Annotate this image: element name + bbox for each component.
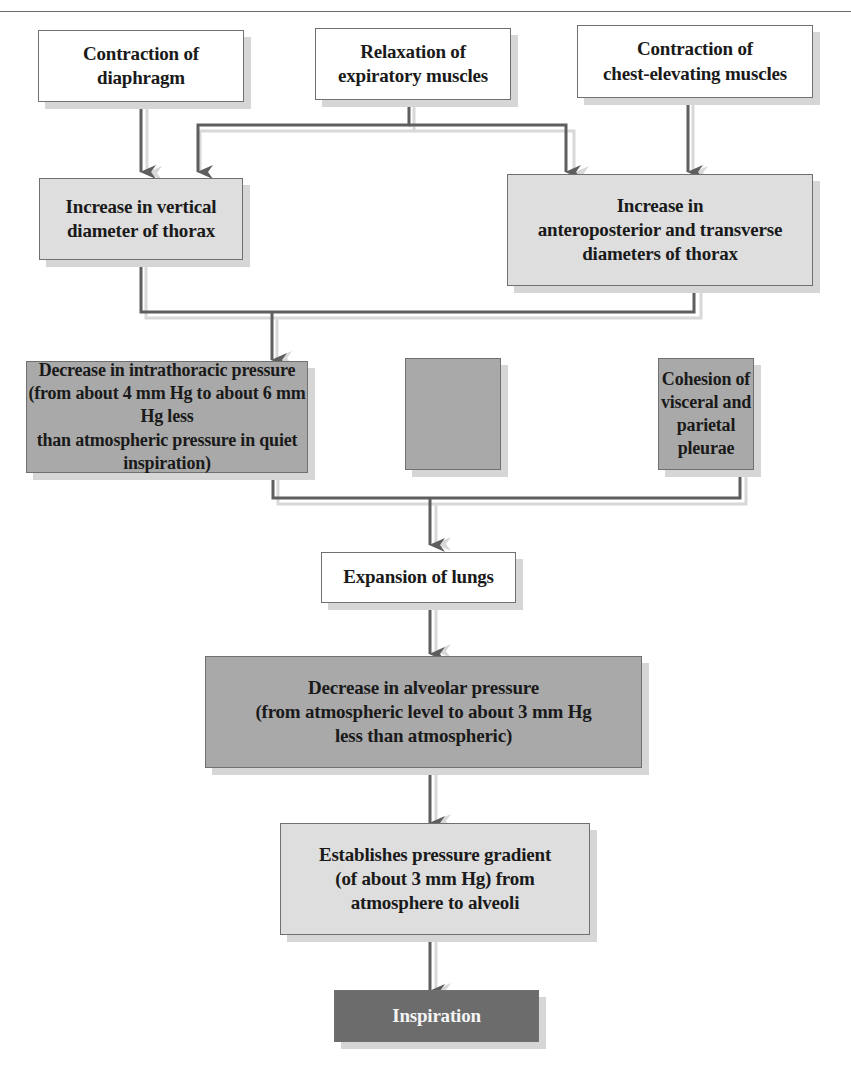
- node-label: Inspiration: [392, 1004, 481, 1028]
- node-label: Contraction of chest-elevating muscles: [603, 37, 787, 86]
- node-contraction-diaphragm: Contraction of diaphragm: [38, 30, 244, 102]
- node-label: Increase in anteroposterior and transver…: [538, 194, 783, 267]
- node-decrease-alveolar: Decrease in alveolar pressure (from atmo…: [205, 656, 642, 768]
- node-pressure-gradient: Establishes pressure gradient (of about …: [280, 823, 590, 935]
- node-increase-ap-transverse: Increase in anteroposterior and transver…: [507, 174, 813, 286]
- node-contraction-chest: Contraction of chest-elevating muscles: [577, 25, 813, 98]
- node-label: Expansion of lungs: [343, 565, 494, 589]
- node-label: Contraction of diaphragm: [83, 42, 199, 91]
- edge-expiratory-to-vertical: [198, 98, 409, 172]
- node-label: Decrease in intrathoracic pressure (from…: [27, 359, 307, 474]
- node-label: Cohesion of visceral and parietal pleura…: [659, 368, 753, 460]
- node-label: Relaxation of expiratory muscles: [338, 40, 488, 89]
- node-label: Establishes pressure gradient (of about …: [319, 843, 551, 916]
- node-relaxation-expiratory: Relaxation of expiratory muscles: [315, 28, 511, 100]
- node-expansion-lungs: Expansion of lungs: [321, 552, 516, 603]
- edge-pressure-merge: [273, 468, 740, 498]
- node-inspiration: Inspiration: [334, 990, 539, 1042]
- node-cohesion-pleurae-placeholder: [405, 358, 501, 470]
- node-increase-vertical: Increase in vertical diameter of thorax: [39, 178, 243, 260]
- node-label: Increase in vertical diameter of thorax: [66, 195, 217, 244]
- respiration-flowchart: Contraction of diaphragm Relaxation of e…: [0, 0, 851, 1069]
- node-cohesion-pleurae: Cohesion of visceral and parietal pleura…: [658, 358, 754, 470]
- node-label: Decrease in alveolar pressure (from atmo…: [255, 676, 591, 749]
- node-decrease-intrathoracic: Decrease in intrathoracic pressure (from…: [26, 361, 308, 473]
